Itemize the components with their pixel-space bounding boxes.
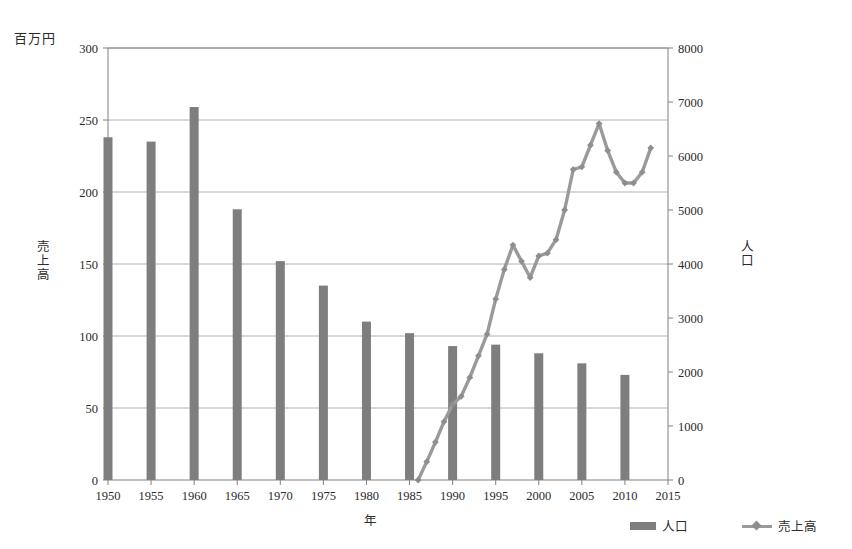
svg-text:4000: 4000	[678, 258, 703, 272]
legend-line-label: 売上高	[778, 516, 817, 535]
svg-text:0: 0	[92, 474, 98, 488]
svg-text:2005: 2005	[569, 489, 594, 503]
svg-text:2010: 2010	[612, 489, 637, 503]
svg-text:1990: 1990	[440, 489, 465, 503]
svg-text:150: 150	[79, 258, 98, 272]
legend-bar-swatch-icon	[630, 522, 656, 530]
legend-line-swatch-icon	[742, 521, 772, 531]
svg-text:1965: 1965	[225, 489, 250, 503]
svg-text:100: 100	[79, 330, 98, 344]
svg-text:1000: 1000	[678, 420, 703, 434]
svg-text:1995: 1995	[483, 489, 508, 503]
legend-bar-label: 人口	[662, 516, 688, 535]
svg-text:300: 300	[79, 42, 98, 56]
svg-text:2015: 2015	[656, 489, 681, 503]
svg-text:3000: 3000	[678, 312, 703, 326]
svg-text:1970: 1970	[268, 489, 293, 503]
chart-container: 百万円 売上高 人口 年 050100150200250300 01000200…	[0, 0, 852, 549]
svg-text:1980: 1980	[354, 489, 379, 503]
svg-text:2000: 2000	[526, 489, 551, 503]
svg-text:2000: 2000	[678, 366, 703, 380]
svg-text:0: 0	[678, 474, 684, 488]
right-axis-ticks: 010002000300040005000600070008000	[668, 42, 703, 488]
svg-text:50: 50	[86, 402, 99, 416]
svg-text:7000: 7000	[678, 96, 703, 110]
svg-text:1975: 1975	[311, 489, 336, 503]
bar-series	[104, 107, 630, 480]
svg-text:1960: 1960	[182, 489, 207, 503]
legend-item-population: 人口	[630, 516, 688, 535]
svg-text:200: 200	[79, 186, 98, 200]
svg-text:1955: 1955	[139, 489, 164, 503]
svg-text:5000: 5000	[678, 204, 703, 218]
legend-item-sales: 売上高	[742, 516, 817, 535]
plot-area: 050100150200250300 010002000300040005000…	[0, 0, 852, 549]
svg-text:1950: 1950	[96, 489, 121, 503]
svg-text:250: 250	[79, 114, 98, 128]
x-axis-ticks: 1950195519601965197019751980198519901995…	[96, 480, 681, 503]
svg-text:8000: 8000	[678, 42, 703, 56]
svg-text:6000: 6000	[678, 150, 703, 164]
svg-text:1985: 1985	[397, 489, 422, 503]
